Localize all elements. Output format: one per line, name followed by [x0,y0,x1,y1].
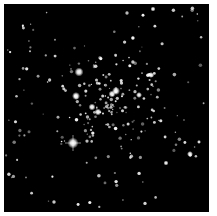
bright-star [136,92,142,98]
bright-star [187,151,193,157]
bright-star [151,7,156,12]
bright-star [109,91,116,98]
bright-star [89,104,96,111]
bright-star [148,72,154,78]
bright-star [95,109,102,116]
bright-star [72,92,80,100]
bright-star [164,161,169,166]
bright-star [75,68,84,77]
star-cluster [0,0,217,216]
